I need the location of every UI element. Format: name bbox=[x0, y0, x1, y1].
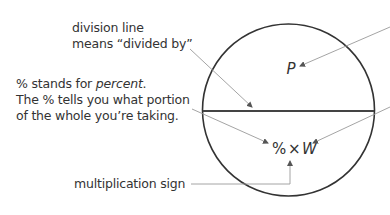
circle-outline bbox=[203, 24, 375, 196]
whole-symbol: W bbox=[302, 140, 318, 158]
percent-circle-diagram: P % × W bbox=[0, 0, 390, 215]
times-symbol: × bbox=[288, 140, 301, 158]
part-arrow bbox=[300, 27, 390, 66]
whole-arrow bbox=[313, 107, 390, 143]
percent-symbol: % bbox=[272, 140, 286, 158]
part-symbol: P bbox=[286, 60, 296, 78]
